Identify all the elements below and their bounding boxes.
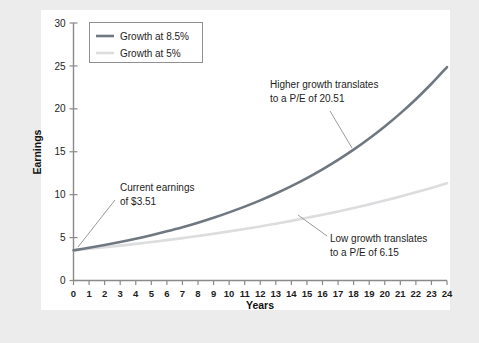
y-tick-label: 0 — [60, 275, 66, 286]
x-tick-label: 20 — [379, 288, 390, 299]
annotation-leader-line — [78, 200, 115, 247]
x-tick-label: 14 — [286, 288, 297, 299]
x-tick-label: 2 — [102, 288, 107, 299]
x-tick-label: 6 — [164, 288, 169, 299]
x-tick-label: 8 — [195, 288, 200, 299]
x-tick-label: 15 — [302, 288, 313, 299]
x-tick-label: 18 — [348, 288, 359, 299]
annotations-group: Current earningsof $3.51Higher growth tr… — [78, 79, 427, 258]
x-tick-label: 7 — [180, 288, 185, 299]
chart-legend: Growth at 8.5%Growth at 5% — [90, 23, 203, 63]
y-tick-label: 30 — [54, 18, 66, 29]
x-tick-label: 16 — [317, 288, 328, 299]
y-tick-label: 10 — [54, 189, 66, 200]
x-tick-label: 10 — [224, 288, 235, 299]
x-tick-label: 24 — [442, 288, 453, 299]
x-tick-label: 23 — [426, 288, 437, 299]
legend-label: Growth at 5% — [120, 48, 181, 59]
x-tick-label: 21 — [395, 288, 406, 299]
annotation-text: of $3.51 — [120, 196, 157, 207]
x-tick-label: 12 — [255, 288, 266, 299]
annotation-text: Low growth translates — [330, 233, 427, 244]
annotation-text: Higher growth translates — [270, 79, 378, 90]
y-tick-label: 25 — [54, 61, 66, 72]
chart-plot-area: 051015202530 012345678910111213141516171… — [0, 0, 479, 343]
series-line — [74, 67, 448, 250]
y-tick-label: 15 — [54, 146, 66, 157]
x-tick-label: 22 — [411, 288, 422, 299]
x-tick-label: 3 — [118, 288, 123, 299]
annotation-text: to a P/E of 20.51 — [270, 93, 345, 104]
x-tick-label: 4 — [133, 288, 139, 299]
x-tick-label: 0 — [71, 288, 76, 299]
x-tick-label: 1 — [86, 288, 92, 299]
y-axis-title: Earnings — [31, 129, 43, 174]
annotation-text: Current earnings — [120, 182, 194, 193]
x-tick-label: 17 — [333, 288, 344, 299]
x-axis-ticks: 0123456789101112131415161718192021222324 — [71, 281, 453, 299]
x-tick-label: 11 — [240, 288, 251, 299]
annotation-text: to a P/E of 6.15 — [330, 247, 399, 258]
annotation-leader-line — [330, 111, 352, 148]
data-series-group — [74, 67, 448, 250]
y-tick-label: 5 — [60, 232, 66, 243]
x-tick-label: 5 — [149, 288, 155, 299]
y-tick-label: 20 — [54, 103, 66, 114]
x-tick-label: 9 — [211, 288, 216, 299]
legend-label: Growth at 8.5% — [120, 31, 189, 42]
chart-figure: 051015202530 012345678910111213141516171… — [0, 0, 479, 343]
x-axis-title: Years — [246, 299, 274, 311]
x-tick-label: 19 — [364, 288, 375, 299]
x-tick-label: 13 — [271, 288, 282, 299]
chart-svg: 051015202530 012345678910111213141516171… — [0, 0, 479, 343]
annotation-leader-line — [298, 215, 327, 236]
